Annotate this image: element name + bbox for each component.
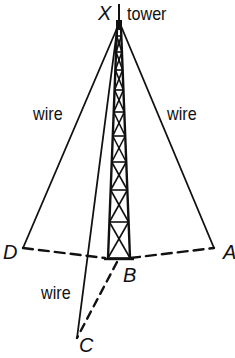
label-wire-right: wire [167, 104, 197, 123]
label-point-x: X [98, 3, 111, 23]
ground-line-ba [130, 248, 214, 258]
label-wire-bottom: wire [41, 283, 71, 302]
ground-line-bc [77, 262, 117, 338]
label-point-d: D [3, 242, 17, 262]
ground-line-db [23, 248, 105, 258]
label-point-c: C [79, 335, 93, 355]
diagram-canvas [0, 0, 235, 358]
lattice-tower [104, 4, 134, 259]
wire-xa [121, 26, 214, 248]
tower-wire-diagram: X tower wire wire wire D A B C [0, 0, 235, 358]
label-tower: tower [127, 4, 166, 23]
label-point-b: B [123, 265, 136, 285]
label-wire-left: wire [33, 104, 63, 123]
label-point-a: A [223, 242, 235, 262]
